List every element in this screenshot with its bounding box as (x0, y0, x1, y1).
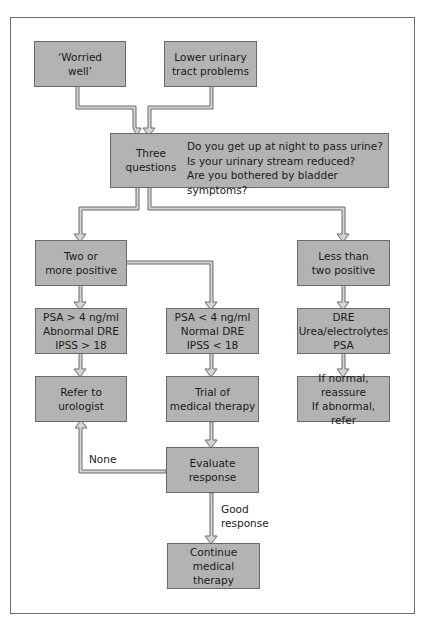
edge-label-good-response: Good response (221, 502, 269, 530)
node-lower-urinary-tract: Lower urinarytract problems (164, 41, 257, 87)
arrow-luts-to-questions (143, 86, 213, 136)
edge-label-none: None (89, 452, 116, 466)
node-text: ‘Worried (58, 50, 102, 64)
node-text: PSA > 4 ng/ml (43, 310, 119, 324)
node-text: If abnormal, refer (298, 399, 389, 427)
node-less-than-two-positive: Less thantwo positive (297, 240, 390, 286)
node-text: Continue medical (168, 545, 259, 573)
node-refer-to-urologist: Refer tourologist (35, 376, 127, 422)
node-trial-medical-therapy: Trial ofmedical therapy (166, 376, 259, 422)
arrow-evaluate-to-continue (205, 493, 217, 544)
arrow-psa-high-to-refer (74, 353, 86, 377)
node-text: response (189, 470, 237, 484)
node-text: well’ (58, 64, 102, 78)
node-text: If normal, reassure (298, 371, 389, 399)
node-worried-well: ‘Worriedwell’ (34, 41, 126, 87)
node-text: Normal DRE (175, 324, 251, 338)
three-questions-list: Do you get up at night to pass urine? Is… (187, 139, 388, 197)
question-item: Is your urinary stream reduced? (187, 154, 388, 169)
node-text: medical therapy (170, 399, 256, 413)
arrow-trial-to-evaluate (205, 422, 217, 448)
node-text: Urea/electrolytes (299, 324, 389, 338)
arrow-two-to-psa-high (74, 285, 86, 310)
node-text: questions (125, 160, 177, 174)
question-item: Do you get up at night to pass urine? (187, 139, 388, 154)
node-text: PSA < 4 ng/ml (175, 310, 251, 324)
question-item: Are you bothered by bladder symptoms? (187, 168, 388, 197)
node-text: urologist (58, 399, 104, 413)
node-text: therapy (168, 573, 259, 587)
node-text: DRE (299, 310, 389, 324)
node-text: PSA (299, 338, 389, 352)
node-two-or-more-positive: Two ormore positive (35, 240, 127, 286)
node-continue-medical-therapy: Continue medicaltherapy (167, 543, 260, 589)
edge-text: Good (221, 502, 269, 516)
arrow-less-to-tests (337, 285, 349, 310)
node-text: two positive (312, 263, 376, 277)
node-text: IPSS > 18 (43, 338, 119, 352)
arrow-worried-to-questions (76, 86, 141, 136)
node-tests: DREUrea/electrolytesPSA (297, 308, 390, 354)
arrow-two-to-psa-low (126, 261, 217, 310)
node-evaluate-response: Evaluateresponse (166, 447, 259, 493)
edge-text: response (221, 516, 269, 530)
node-text: tract problems (172, 64, 249, 78)
node-psa-low: PSA < 4 ng/mlNormal DREIPSS < 18 (166, 308, 259, 354)
three-questions-label: Three questions (125, 146, 177, 174)
node-text: Evaluate (189, 456, 237, 470)
node-text: Two or (45, 249, 117, 263)
node-text: Refer to (58, 385, 104, 399)
node-normal-abnormal: If normal, reassureIf abnormal, refer (297, 376, 390, 422)
node-text: Lower urinary (172, 50, 249, 64)
node-text: more positive (45, 263, 117, 277)
node-text: Three (125, 146, 177, 160)
arrow-questions-to-two-or-more (74, 187, 139, 242)
node-text: Abnormal DRE (43, 324, 119, 338)
node-psa-high: PSA > 4 ng/mlAbnormal DREIPSS > 18 (35, 308, 127, 354)
node-text: Trial of (170, 385, 256, 399)
node-text: IPSS < 18 (175, 338, 251, 352)
node-text: Less than (312, 249, 376, 263)
node-three-questions: Three questions Do you get up at night t… (110, 133, 389, 188)
arrow-psa-low-to-trial (205, 353, 217, 377)
